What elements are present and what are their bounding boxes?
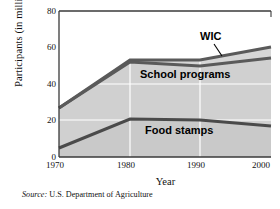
- annotation-wic: WIC: [200, 30, 221, 42]
- x-tick-1970: 1970: [46, 160, 64, 170]
- chart-figure: Participants (in millions) 80 60 40 20 0: [0, 0, 280, 209]
- annotation-school-programs: School programs: [140, 68, 230, 80]
- x-tick-1980: 1980: [117, 160, 135, 170]
- x-tick-1990: 1990: [187, 160, 205, 170]
- source-note: Source: U.S. Department of Agriculture: [22, 190, 153, 199]
- wic-leader-line: [214, 44, 222, 56]
- x-tick-2000: 2000: [252, 160, 270, 170]
- x-axis-title: Year: [58, 176, 273, 187]
- source-label: Source:: [22, 190, 47, 199]
- annotation-food-stamps: Food stamps: [145, 124, 213, 136]
- source-value: U.S. Department of Agriculture: [49, 190, 152, 199]
